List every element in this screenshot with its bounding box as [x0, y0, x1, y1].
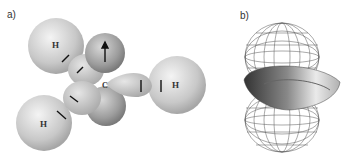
hydrogen-label-top-left: H: [52, 40, 59, 50]
torus-surface: [244, 66, 340, 110]
hydrogen-label-right: H: [172, 80, 179, 90]
panel-a: a): [0, 0, 220, 162]
hydrogen-label-bottom-left: H: [40, 119, 47, 129]
bond-lobe-lower-left: [63, 81, 101, 115]
methyl-radical-orbital-model: H H H C: [0, 0, 220, 162]
p-orbital-wireframe: [220, 0, 348, 162]
carbon-label: C: [102, 81, 108, 90]
panel-b: b): [220, 0, 348, 162]
